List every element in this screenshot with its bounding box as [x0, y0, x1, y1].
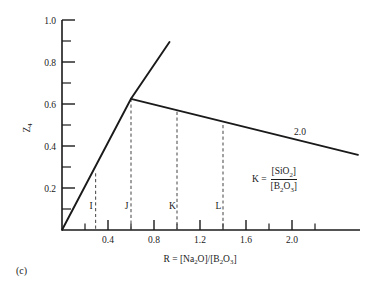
x-axis-title-mid: O]/[B [198, 254, 220, 264]
y-tick-label: 0.4 [44, 142, 56, 152]
x-tick-label: 2.0 [286, 235, 298, 245]
equation-fraction: [SiO2] [B2O3] [270, 166, 298, 193]
marker-label-K: K [169, 201, 176, 211]
numerator-main: [SiO [272, 166, 290, 176]
x-tick-label: 1.6 [240, 235, 252, 245]
axes-group [62, 20, 360, 230]
y-tick-label: 0.6 [44, 100, 56, 110]
x-axis-title-prefix: R = [Na [163, 254, 194, 264]
marker-label-J: J [125, 201, 129, 211]
series-label-descending: 2.0 [294, 127, 306, 137]
y-axis-ticks [62, 20, 75, 209]
y-axis-tick-labels: 1.0 0.8 0.6 0.4 0.2 [44, 16, 56, 194]
denominator-main: [B [271, 181, 281, 191]
x-axis-ticks [85, 220, 315, 230]
y-tick-label: 0.2 [44, 184, 56, 194]
x-tick-label: 0.8 [148, 235, 160, 245]
denominator-close: ] [294, 181, 297, 191]
equation-numerator: [SiO2] [271, 166, 298, 180]
y-tick-label: 0.8 [44, 58, 56, 68]
x-tick-label: 0.4 [102, 235, 114, 245]
descending-branch-line [131, 99, 358, 155]
data-series-group [62, 42, 358, 230]
figure-panel: 1.0 0.8 0.6 0.4 0.2 0.4 0.8 1.2 1.6 2 [0, 0, 373, 296]
marker-label-I: I [89, 201, 92, 211]
x-axis-title: R = [Na2O]/[B2O3] [163, 254, 236, 265]
chart-canvas: 1.0 0.8 0.6 0.4 0.2 0.4 0.8 1.2 1.6 2 [0, 0, 373, 296]
y-axis-title: Z4 [22, 123, 33, 133]
numerator-close: ] [293, 166, 296, 176]
marker-labels: I J K L [89, 201, 221, 211]
y-axis-title-sub: 4 [26, 123, 33, 127]
marker-label-L: L [216, 201, 222, 211]
svg-text:Z4: Z4 [22, 123, 33, 133]
y-tick-label: 1.0 [44, 16, 56, 26]
x-axis-title-suffix: ] [233, 254, 236, 264]
panel-caption: (c) [16, 265, 27, 276]
equation-lhs: K = [252, 175, 267, 185]
x-axis-tick-labels: 0.4 0.8 1.2 1.6 2.0 [102, 235, 298, 245]
rising-branch-line [62, 42, 170, 230]
marker-drop-lines [96, 99, 223, 230]
equation-annotation: K = [SiO2] [B2O3] [252, 166, 298, 193]
equation-denominator: [B2O3] [270, 180, 298, 193]
x-tick-label: 1.2 [194, 235, 206, 245]
